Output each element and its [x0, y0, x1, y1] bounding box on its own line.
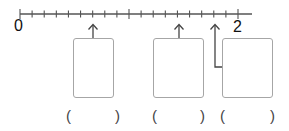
start-label: 0	[14, 18, 23, 34]
blank-1-open-paren: (	[66, 108, 71, 123]
arrow-2-icon	[175, 25, 184, 39]
arrow-3-elbow-icon	[211, 25, 223, 68]
answer-box-3[interactable]	[222, 38, 273, 98]
blank-2-open-paren: (	[152, 108, 157, 123]
blank-1-close-paren: )	[115, 108, 120, 123]
arrow-1-icon	[89, 25, 98, 39]
end-label: 2	[233, 19, 242, 35]
blank-3-open-paren: (	[220, 108, 225, 123]
blank-2-close-paren: )	[200, 108, 205, 123]
blank-3-close-paren: )	[270, 108, 275, 123]
answer-box-1[interactable]	[73, 38, 114, 98]
answer-box-2[interactable]	[153, 38, 204, 98]
number-line-exercise: 0 2 ( ) ( ) ( )	[0, 0, 289, 131]
